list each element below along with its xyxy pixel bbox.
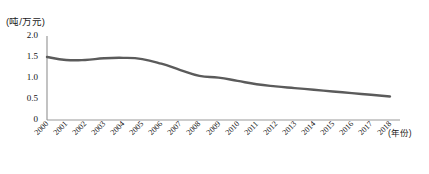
- data-series-line: [47, 57, 390, 96]
- line-chart: (吨/万元) 2.01.51.00.50 2000200120022003200…: [0, 0, 429, 174]
- x-axis-title: (年份): [388, 126, 412, 138]
- plot-area: [0, 0, 429, 174]
